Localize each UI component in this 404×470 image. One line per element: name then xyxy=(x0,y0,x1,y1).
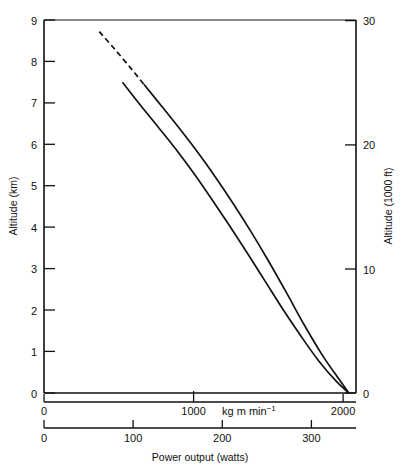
x2-units-exponent: −1 xyxy=(267,404,277,413)
y-tick-label: 3 xyxy=(31,263,37,275)
altitude-vs-power-chart: 9 8 7 6 5 4 3 2 1 0 30 20 10 0 xyxy=(0,0,404,470)
y-tick-label: 7 xyxy=(31,97,37,109)
y2-axis-title: Altitude (1000 ft) xyxy=(382,167,394,244)
upper-curve-solid xyxy=(144,84,349,393)
y-axis-right-ticks xyxy=(345,21,356,393)
x2-tick-label: 0 xyxy=(41,405,47,417)
chart-figure: 9 8 7 6 5 4 3 2 1 0 30 20 10 0 xyxy=(0,0,404,470)
y-tick-label: 0 xyxy=(31,388,37,400)
x-axis-title: Power output (watts) xyxy=(152,451,248,463)
x-tick-label: 0 xyxy=(41,432,47,444)
plot-frame xyxy=(44,20,356,393)
y-axis-left-ticks xyxy=(44,20,55,393)
y2-tick-label: 10 xyxy=(363,264,375,276)
y-tick-label: 9 xyxy=(31,15,37,27)
x-tick-label: 100 xyxy=(124,432,142,444)
lower-curve-solid xyxy=(122,82,348,393)
data-curves xyxy=(99,32,349,393)
x2-tick-label: 2000 xyxy=(331,405,355,417)
y-tick-label: 1 xyxy=(31,346,37,358)
y-tick-label: 8 xyxy=(31,56,37,68)
x2-units-label: kg m min−1 xyxy=(222,404,276,417)
y-tick-label: 4 xyxy=(31,222,37,234)
y-tick-label: 2 xyxy=(31,305,37,317)
y-axis-right-tick-labels: 30 20 10 0 xyxy=(363,15,375,399)
x2-units-text: kg m min xyxy=(222,405,267,417)
x-tick-label: 300 xyxy=(302,432,320,444)
y2-tick-label: 0 xyxy=(363,388,369,400)
y-axis-left-tick-labels: 9 8 7 6 5 4 3 2 1 0 xyxy=(31,15,37,400)
y2-tick-label: 30 xyxy=(363,15,375,27)
x-tick-label: 200 xyxy=(213,432,231,444)
x2-tick-label: 1000 xyxy=(181,405,205,417)
y-tick-label: 6 xyxy=(31,139,37,151)
x-axis-secondary: 0 1000 2000 kg m min−1 xyxy=(41,391,356,417)
y-tick-label: 5 xyxy=(31,180,37,192)
y2-tick-label: 20 xyxy=(363,139,375,151)
x-axis-primary: 0 100 200 300 Power output (watts) xyxy=(41,420,356,463)
upper-curve-dashed xyxy=(99,32,144,85)
y-axis-title: Altitude (km) xyxy=(7,177,19,236)
